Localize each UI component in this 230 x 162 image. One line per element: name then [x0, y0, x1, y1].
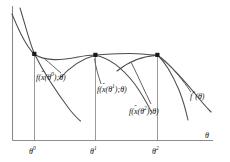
label2-close: ) [156, 107, 159, 116]
leader-lines-group [45, 58, 192, 105]
x-tick-label-theta0: θ0 [29, 146, 36, 156]
label-f-star: f*(θ) [190, 90, 205, 101]
label0-xhat-wrap: ˆx [41, 74, 45, 82]
label0-close: ) [63, 73, 66, 82]
label-f-xhat-theta1: f(ˆx(θ1);θ) [97, 84, 127, 94]
label-f-xhat-theta0: f(ˆx(θ0);θ) [36, 72, 66, 82]
tick1-sup: 1 [94, 145, 97, 151]
label2-hat: ˆ [135, 104, 137, 111]
label1-hat: ˆ [103, 82, 105, 89]
figure-canvas [0, 0, 230, 162]
curve-minorant-theta0 [20, 8, 81, 121]
tick2-sup: 2 [156, 145, 159, 151]
x-tick-label-theta2: θ2 [152, 146, 159, 156]
leader-line-fstar [161, 58, 191, 93]
marker-theta0 [32, 52, 36, 56]
x-tick-label-theta1: θ1 [90, 146, 97, 156]
x-axis-label: θ [205, 131, 209, 140]
label-f-xhat-theta2: f(ˆx(θ2);θ) [129, 106, 159, 116]
label2-xhat-wrap: ˆx [134, 108, 138, 116]
cutting-plane-figure: f(ˆx(θ0);θ) f(ˆx(θ1);θ) f(ˆx(θ2);θ) f*(θ… [0, 0, 230, 162]
marker-theta1 [93, 53, 97, 57]
label1-close: ) [124, 85, 127, 94]
tick0-sup: 0 [33, 145, 36, 151]
marker-theta2 [155, 53, 159, 57]
labelstar-close: ) [202, 92, 205, 101]
label1-xhat-wrap: ˆx [102, 86, 106, 94]
label0-hat: ˆ [42, 70, 44, 77]
